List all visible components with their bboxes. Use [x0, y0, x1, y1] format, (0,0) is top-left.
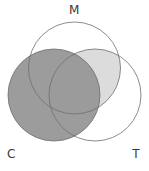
- set-label-c: C: [7, 148, 16, 160]
- region-c-fill: [8, 49, 100, 141]
- venn-diagram-svg: [0, 0, 149, 171]
- venn-diagram: M C T: [0, 0, 149, 171]
- set-label-m: M: [0, 4, 149, 16]
- set-label-t: T: [132, 148, 140, 160]
